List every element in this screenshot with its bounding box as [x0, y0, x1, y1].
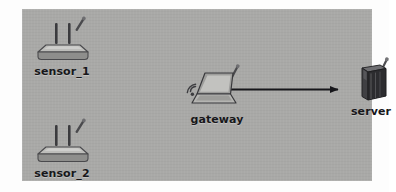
node-label: sensor_2 — [19, 167, 105, 180]
node-gateway[interactable]: gateway — [174, 67, 260, 126]
node-server[interactable]: server — [328, 59, 396, 118]
server-tower-icon — [328, 59, 396, 105]
node-sensor-2[interactable]: sensor_2 — [19, 121, 105, 180]
diagram-panel: sensor_1 — [22, 9, 372, 181]
node-label: server — [328, 105, 396, 118]
node-label: sensor_1 — [19, 65, 105, 78]
node-sensor-1[interactable]: sensor_1 — [19, 19, 105, 78]
wireless-router-icon — [19, 121, 105, 167]
node-label: gateway — [174, 113, 260, 126]
wireless-laptop-icon — [174, 67, 260, 113]
wireless-router-icon — [19, 19, 105, 65]
